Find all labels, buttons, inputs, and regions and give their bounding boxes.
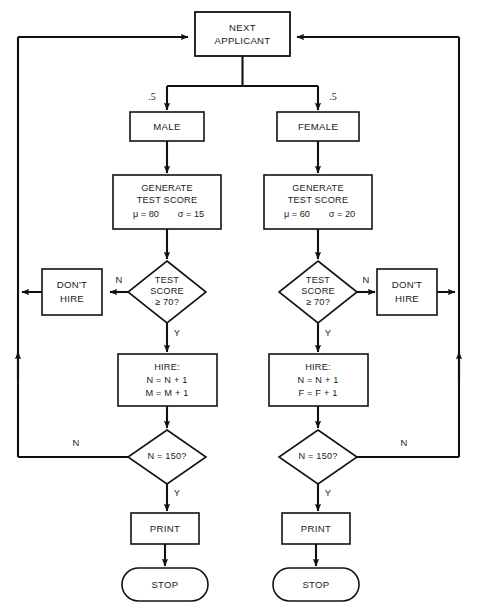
test-score-female-line1: TEST [306, 275, 330, 285]
dont-hire-female-line2: HIRE [395, 293, 419, 304]
stop-male-label: STOP [151, 579, 178, 590]
hire-female-line3: F = F + 1 [298, 388, 337, 398]
node-stop-female[interactable]: STOP [273, 568, 359, 601]
node-print-male[interactable]: PRINT [131, 513, 199, 544]
node-male[interactable]: MALE [130, 112, 204, 141]
count-female-no-label: N [401, 437, 408, 448]
test-score-male-line1: TEST [155, 275, 179, 285]
male-label: MALE [153, 121, 180, 132]
generate-female-mu: μ = 60 [284, 209, 310, 219]
print-female-label: PRINT [301, 523, 331, 534]
hire-female-line1: HIRE: [305, 362, 331, 372]
print-male-label: PRINT [150, 523, 180, 534]
test-score-female-line3: ≥ 70? [306, 297, 330, 307]
node-count-decision-female[interactable]: N = 150? [279, 430, 357, 484]
branch-probability-right: .5 [329, 91, 337, 102]
node-generate-test-score-female[interactable]: GENERATE TEST SCORE μ = 60 σ = 20 [264, 175, 372, 229]
test-score-male-line2: SCORE [150, 286, 184, 296]
node-next-applicant[interactable]: NEXT APPLICANT [195, 12, 290, 56]
generate-male-sigma: σ = 15 [178, 209, 204, 219]
count-female-label: N = 150? [298, 451, 337, 461]
generate-female-line1: GENERATE [292, 183, 343, 193]
node-hire-male[interactable]: HIRE: N = N + 1 M = M + 1 [118, 354, 217, 406]
count-male-yes-label: Y [174, 487, 181, 498]
next-applicant-line2: APPLICANT [214, 35, 270, 46]
dont-hire-male-line2: HIRE [60, 293, 84, 304]
node-stop-male[interactable]: STOP [122, 568, 208, 601]
test-score-male-line3: ≥ 70? [155, 297, 179, 307]
stop-female-label: STOP [302, 579, 329, 590]
node-print-female[interactable]: PRINT [282, 513, 350, 544]
hire-female-line2: N = N + 1 [297, 375, 338, 385]
hire-male-line2: N = N + 1 [146, 375, 187, 385]
node-count-decision-male[interactable]: N = 150? [128, 430, 206, 484]
test-score-male-no-label: N [116, 274, 123, 285]
test-score-female-no-label: N [363, 274, 370, 285]
branch-probability-left: .5 [148, 91, 156, 102]
hire-male-line3: M = M + 1 [145, 388, 188, 398]
generate-male-line2: TEST SCORE [137, 195, 198, 205]
node-test-score-decision-male[interactable]: TEST SCORE ≥ 70? [128, 261, 206, 323]
generate-male-line1: GENERATE [141, 183, 192, 193]
generate-female-sigma: σ = 20 [329, 209, 355, 219]
flowchart-diagram: NEXT APPLICANT .5 .5 MALE GENERATE TEST … [0, 0, 477, 613]
node-dont-hire-female[interactable]: DON'T HIRE [377, 269, 437, 315]
count-male-label: N = 150? [147, 451, 186, 461]
test-score-male-yes-label: Y [174, 327, 181, 338]
node-hire-female[interactable]: HIRE: N = N + 1 F = F + 1 [269, 354, 368, 406]
node-test-score-decision-female[interactable]: TEST SCORE ≥ 70? [279, 261, 357, 323]
female-label: FEMALE [298, 121, 338, 132]
dont-hire-male-line1: DON'T [57, 279, 88, 290]
flowchart-canvas: NEXT APPLICANT .5 .5 MALE GENERATE TEST … [0, 0, 477, 613]
node-female[interactable]: FEMALE [277, 112, 359, 141]
hire-male-line1: HIRE: [154, 362, 180, 372]
generate-male-mu: μ = 80 [133, 209, 159, 219]
next-applicant-line1: NEXT [229, 22, 256, 33]
node-generate-test-score-male[interactable]: GENERATE TEST SCORE μ = 80 σ = 15 [113, 175, 221, 229]
count-female-yes-label: Y [325, 487, 332, 498]
node-dont-hire-male[interactable]: DON'T HIRE [42, 269, 102, 315]
count-male-no-label: N [73, 437, 80, 448]
test-score-female-line2: SCORE [301, 286, 335, 296]
generate-female-line2: TEST SCORE [288, 195, 349, 205]
test-score-female-yes-label: Y [325, 327, 332, 338]
dont-hire-female-line1: DON'T [392, 279, 423, 290]
